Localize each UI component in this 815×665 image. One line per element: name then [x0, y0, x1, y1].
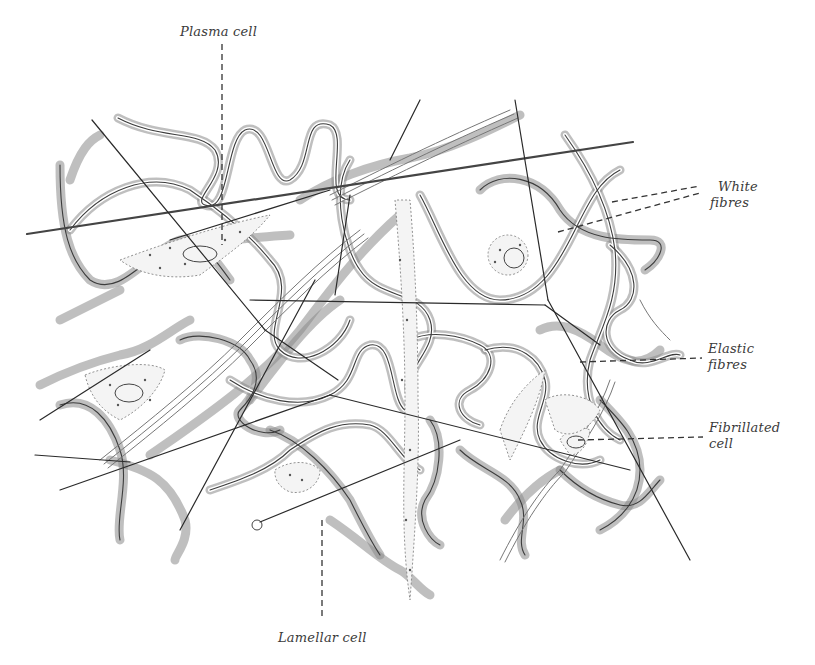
label-text-line1: Elastic [708, 341, 754, 357]
label-lamellar-cell: Lamellar cell [278, 630, 367, 646]
label-fibrillated-cell: Fibrillated cell [709, 420, 780, 452]
label-text-line1: Fibrillated [709, 420, 780, 436]
label-text-line2: fibres [710, 195, 758, 211]
label-text-line2: cell [709, 436, 780, 452]
label-text-line1: White [710, 179, 758, 195]
label-text-line2: fibres [708, 357, 754, 373]
leader-fibrillated-cell [578, 437, 703, 440]
label-text: Plasma cell [180, 24, 257, 39]
connective-tissue-drawing [0, 0, 815, 665]
label-text: Lamellar cell [278, 630, 367, 645]
leader-white-fibres-1 [612, 186, 700, 202]
label-white-fibres: White fibres [710, 179, 758, 211]
label-elastic-fibres: Elastic fibres [708, 341, 754, 373]
label-plasma-cell: Plasma cell [180, 24, 257, 40]
anatomical-figure: Plasma cell White fibres Elastic fibres … [0, 0, 815, 665]
